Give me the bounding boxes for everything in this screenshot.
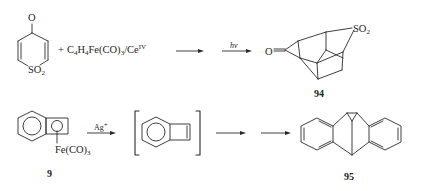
- product-94-sulfonyl-label: SO2: [353, 23, 370, 36]
- compound-number-94: 94: [314, 88, 324, 99]
- product-95-dibenzo-cage: 95: [301, 113, 401, 182]
- reaction-arrow-silver: Ag+: [87, 121, 116, 135]
- sulfonyl-label: SO2: [28, 64, 45, 77]
- carbonyl-oxygen-label: O: [28, 12, 36, 23]
- reaction-scheme: O SO2 +C4H4Fe(CO)3/CeIV hν O: [0, 0, 422, 191]
- reactant-thiopyranone-dioxide: O SO2: [18, 12, 48, 77]
- reaction-arrow-3: [261, 131, 291, 135]
- hv-label: hν: [230, 41, 238, 50]
- silver-ion-label: Ag+: [94, 121, 108, 132]
- reaction-arrow-2: [216, 131, 246, 135]
- reagent-text: +C4H4Fe(CO)3/CeIV: [58, 43, 146, 57]
- reaction-arrow-photolysis: hν: [222, 41, 252, 53]
- product-94-oxygen-label: O: [265, 46, 273, 57]
- product-94-cage: O SO2 94: [265, 23, 370, 99]
- intermediate-benzocyclobutadiene: [135, 111, 200, 155]
- compound-number-95: 95: [344, 171, 354, 182]
- reactant-9-iron-complex: Fe(CO)3 9: [18, 111, 91, 179]
- reaction-arrow-1: [176, 49, 204, 53]
- compound-number-9: 9: [47, 168, 52, 179]
- iron-tricarbonyl-label: Fe(CO)3: [55, 144, 91, 157]
